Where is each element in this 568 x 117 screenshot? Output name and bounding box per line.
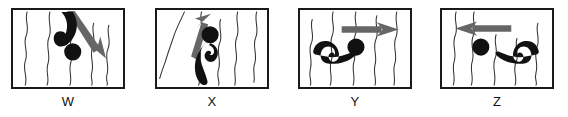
panel-y-label: Y — [298, 94, 412, 110]
panel-z-illustration — [442, 10, 552, 87]
four-panel-diagram: W — [0, 0, 568, 117]
panel-x-frame — [155, 8, 269, 89]
swimmer-figure — [472, 39, 539, 64]
water-line — [218, 20, 221, 86]
water-lines-group — [453, 12, 538, 85]
arrow-right-icon — [342, 22, 399, 36]
arrow-left-icon — [455, 21, 511, 35]
water-lines-group — [160, 12, 257, 85]
water-line — [453, 12, 456, 85]
water-line — [235, 12, 238, 85]
water-line — [24, 12, 27, 85]
panel-w-illustration — [13, 10, 123, 87]
water-line — [374, 16, 377, 85]
panel-w-label: W — [11, 94, 125, 110]
panel-z-label: Z — [440, 94, 554, 110]
panel-w-frame — [11, 8, 125, 89]
water-line — [310, 20, 313, 86]
panel-y-illustration — [300, 10, 410, 87]
panel-x-label: X — [155, 94, 269, 110]
water-line — [330, 12, 333, 85]
panel-z-frame — [440, 8, 554, 89]
water-line — [106, 25, 109, 85]
water-line — [494, 35, 497, 85]
panel-x-illustration — [157, 10, 267, 87]
water-line — [394, 12, 397, 85]
swimmer-figure — [313, 39, 364, 64]
water-line — [160, 12, 185, 79]
panel-y-frame — [298, 8, 412, 89]
water-line — [254, 12, 257, 82]
water-line — [91, 23, 94, 85]
water-line — [47, 12, 50, 85]
